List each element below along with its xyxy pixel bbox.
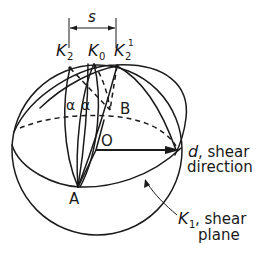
- svg-text:1: 1: [128, 38, 134, 48]
- label-o: O: [101, 132, 113, 150]
- point-k2: [68, 66, 72, 70]
- label-k0: K 0: [88, 41, 105, 62]
- label-shear-direction: d , shear direction: [187, 142, 253, 176]
- svg-text:plane: plane: [198, 226, 240, 244]
- label-alpha-left: α: [66, 97, 75, 113]
- point-k2-prime: [115, 64, 119, 68]
- label-s: s: [88, 8, 96, 26]
- label-shear-plane: K 1 , shear plane: [178, 209, 247, 244]
- shear-plane-front: [12, 145, 181, 187]
- shear-sphere-diagram: s K 2 K 0 K 2 1 α α B O A: [0, 0, 265, 253]
- label-alpha-right: α: [81, 97, 90, 113]
- shear-plane-pointer: [144, 179, 177, 215]
- label-k2: K 2: [56, 41, 73, 62]
- svg-text:0: 0: [99, 51, 105, 62]
- label-k2-prime: K 2 1: [114, 38, 134, 62]
- svg-text:direction: direction: [187, 158, 253, 176]
- svg-text:2: 2: [67, 51, 73, 62]
- svg-text:2: 2: [125, 51, 131, 62]
- label-b: B: [120, 100, 130, 118]
- meridian-k2: [65, 68, 78, 187]
- label-a: A: [69, 190, 80, 208]
- dashed-k0-to-b: [94, 64, 110, 110]
